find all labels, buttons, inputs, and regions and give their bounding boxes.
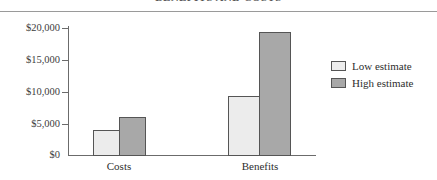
bar-costs-high-estimate[interactable] xyxy=(119,117,146,156)
y-tick-label-20000: $20,000 xyxy=(2,23,60,33)
bar-costs-low-estimate[interactable] xyxy=(93,130,120,156)
x-category-label-benefits: Benefits xyxy=(229,160,291,173)
y-axis-labels: $20,000 $15,000 $10,000 $5,000 $0 xyxy=(0,0,60,180)
y-tick-label-10000: $10,000 xyxy=(2,87,60,97)
legend-label-high-estimate: High estimate xyxy=(352,77,413,89)
bar-benefits-high-estimate[interactable] xyxy=(259,32,291,156)
high-estimate-swatch-icon xyxy=(331,78,346,88)
bar-benefits-low-estimate[interactable] xyxy=(228,96,260,156)
y-tick-mark-10000 xyxy=(62,92,69,93)
y-tick-label-5000: $5,000 xyxy=(2,119,60,129)
chart-figure: BENEFITS AND COSTS $20,000 $15,000 $10,0… xyxy=(0,0,437,180)
y-tick-label-0: $0 xyxy=(2,150,60,160)
y-tick-label-15000: $15,000 xyxy=(2,55,60,65)
y-axis-line xyxy=(68,26,69,156)
y-tick-mark-20000 xyxy=(62,28,69,29)
legend-label-low-estimate: Low estimate xyxy=(352,60,412,72)
chart-legend: Low estimate High estimate xyxy=(331,57,413,91)
x-category-label-costs: Costs xyxy=(89,160,149,173)
legend-item-low-estimate[interactable]: Low estimate xyxy=(331,57,413,74)
low-estimate-swatch-icon xyxy=(331,61,346,71)
y-tick-mark-5000 xyxy=(62,124,69,125)
y-tick-mark-15000 xyxy=(62,60,69,61)
legend-item-high-estimate[interactable]: High estimate xyxy=(331,74,413,91)
